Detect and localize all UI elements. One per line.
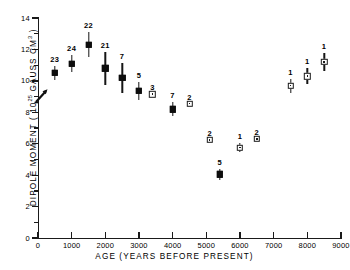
open-square-marker xyxy=(287,82,293,88)
data-point: 5 xyxy=(214,168,226,180)
sample-count-label: 2 xyxy=(207,129,212,138)
data-point: 1 xyxy=(234,142,246,154)
filled-square-marker xyxy=(119,75,125,81)
open-square-marker xyxy=(237,144,243,150)
sample-count-label: 5 xyxy=(137,71,142,80)
sample-count-label: 3 xyxy=(150,83,155,92)
data-point: 23 xyxy=(49,67,61,79)
y-axis-title: DIPOLE MOMENT ( 1025 GAUSS CM3 ) xyxy=(27,17,38,217)
x-tick-8000 xyxy=(307,232,308,239)
sample-count-label: 23 xyxy=(50,55,59,64)
filled-square-marker xyxy=(136,88,142,94)
data-point: 7 xyxy=(167,103,179,115)
y-axis-line xyxy=(38,17,39,239)
x-tick-label-5000: 5000 xyxy=(198,241,216,250)
x-tick-5000 xyxy=(206,232,207,239)
data-point: 1 xyxy=(301,70,313,82)
x-tick-label-7000: 7000 xyxy=(265,241,283,250)
data-point: 21 xyxy=(99,62,111,74)
open-square-marker xyxy=(321,59,327,65)
x-tick-0 xyxy=(37,232,38,239)
data-point: 2 xyxy=(184,98,196,110)
sample-count-label: 22 xyxy=(84,21,93,30)
open-square-marker xyxy=(304,73,310,79)
sample-count-label: 7 xyxy=(170,91,175,100)
data-point: 24 xyxy=(66,58,78,70)
filled-square-marker xyxy=(52,70,58,76)
x-tick-label-2000: 2000 xyxy=(97,241,115,250)
filled-square-marker xyxy=(85,42,91,48)
sample-count-label: 2 xyxy=(255,128,260,137)
filled-square-marker xyxy=(102,65,108,71)
x-tick-label-6000: 6000 xyxy=(231,241,249,250)
data-point: 3 xyxy=(146,88,158,100)
sample-count-label: 1 xyxy=(322,42,327,51)
data-point: 1 xyxy=(285,80,297,92)
sample-count-label: 5 xyxy=(218,158,223,167)
data-point: 22 xyxy=(83,39,95,51)
x-tick-3000 xyxy=(138,232,139,239)
filled-square-marker xyxy=(217,171,223,177)
x-tick-6000 xyxy=(239,232,240,239)
data-point: 2 xyxy=(204,134,216,146)
data-point: 1 xyxy=(318,56,330,68)
x-tick-2000 xyxy=(105,232,106,239)
x-tick-label-9000: 9000 xyxy=(332,241,350,250)
data-point: 2 xyxy=(251,133,263,145)
x-tick-label-1000: 1000 xyxy=(63,241,81,250)
x-tick-label-3000: 3000 xyxy=(130,241,148,250)
filled-square-marker xyxy=(68,60,74,66)
sample-count-label: 7 xyxy=(120,52,125,61)
sample-count-label: 24 xyxy=(67,44,76,53)
data-point: 7 xyxy=(116,72,128,84)
x-tick-4000 xyxy=(172,232,173,239)
y-tick-label-0: 0 xyxy=(14,234,30,243)
x-axis-line xyxy=(38,238,342,239)
x-tick-7000 xyxy=(273,232,274,239)
sample-count-label: 1 xyxy=(238,132,243,141)
filled-square-marker xyxy=(169,106,175,112)
data-point: 5 xyxy=(133,85,145,97)
sample-count-label: 21 xyxy=(101,41,110,50)
y-tick-minor-1 xyxy=(34,222,38,223)
x-tick-9000 xyxy=(340,232,341,239)
sample-count-label: 1 xyxy=(288,68,293,77)
sample-count-label: 1 xyxy=(305,57,310,66)
x-tick-label-0: 0 xyxy=(36,241,40,250)
x-tick-label-8000: 8000 xyxy=(299,241,317,250)
x-tick-1000 xyxy=(71,232,72,239)
x-axis-title: AGE (YEARS BEFORE PRESENT) xyxy=(0,252,349,261)
y-axis-title-text: DIPOLE MOMENT ( 1025 GAUSS CM3 ) xyxy=(28,29,37,207)
x-tick-label-4000: 4000 xyxy=(164,241,182,250)
sample-count-label: 2 xyxy=(187,93,192,102)
